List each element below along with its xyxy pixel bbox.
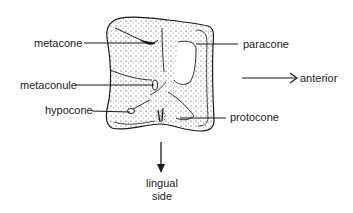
tooth-crown [106, 17, 214, 131]
metaconule-label: metaconule [20, 79, 77, 91]
paracone-label: paracone [243, 38, 289, 50]
hypocone-label: hypocone [45, 104, 93, 116]
protocone-label: protocone [230, 111, 279, 123]
lingual-arrow-icon [157, 142, 165, 173]
anterior-arrow-icon [242, 73, 297, 83]
metacone-label: metacone [34, 37, 82, 49]
lingual-label-line2: side [142, 190, 182, 202]
lingual-label-line1: lingual [142, 177, 182, 189]
anterior-label: anterior [300, 72, 337, 84]
